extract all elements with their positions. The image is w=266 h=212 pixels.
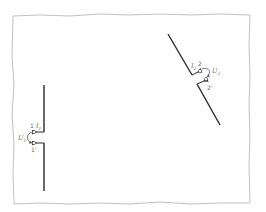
antenna-2-feed-bottom: [197, 81, 204, 84]
antenna-1: 1 I1 U1 1': [18, 85, 44, 191]
terminal-2: [198, 69, 201, 72]
voltage-arrow-u2: [202, 68, 209, 77]
terminal-1: [32, 130, 35, 133]
terminal-2-label: 2: [198, 60, 202, 67]
antenna-diagram: 1 I1 U1 1' I2 2 U2 2': [0, 0, 266, 212]
antenna-2-feed-top: [192, 72, 198, 75]
antenna-2-upper-arm: [168, 34, 192, 75]
terminal-2-prime: [204, 77, 207, 80]
antenna-2: I2 2 U2 2': [168, 34, 220, 125]
current-i1-label: I1: [35, 122, 41, 131]
current-i2-label: I2: [190, 62, 197, 71]
voltage-u1-label: U1: [18, 134, 26, 143]
terminal-2-prime-label: 2': [207, 84, 213, 91]
voltage-arrow-u1: [28, 132, 33, 143]
terminal-1-prime: [32, 141, 35, 144]
terminal-1-prime-label: 1': [31, 146, 37, 153]
voltage-u2-label: U2: [212, 67, 220, 76]
frame-border: [12, 14, 250, 204]
terminal-1-label: 1: [30, 122, 34, 129]
